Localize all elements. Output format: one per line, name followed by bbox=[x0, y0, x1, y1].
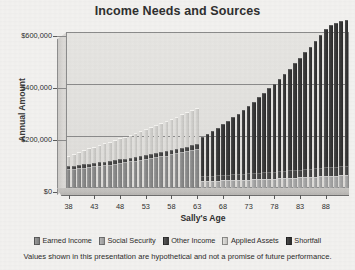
bar-segment bbox=[108, 142, 112, 161]
bar-segment bbox=[134, 161, 138, 188]
bar-column bbox=[113, 140, 117, 188]
bar-segment bbox=[98, 166, 102, 188]
bar-segment bbox=[252, 179, 256, 188]
bar-segment bbox=[195, 108, 199, 144]
legend-item[interactable]: Applied Assets bbox=[222, 236, 278, 245]
bar-segment bbox=[226, 121, 230, 175]
x-tick-label: 83 bbox=[296, 202, 304, 211]
bar-segment bbox=[154, 125, 158, 153]
legend-item[interactable]: Social Security bbox=[99, 236, 156, 245]
bar-column bbox=[154, 125, 158, 188]
bar-column bbox=[103, 143, 107, 188]
bar-segment bbox=[242, 110, 246, 174]
bar-column bbox=[273, 83, 277, 188]
bar-segment bbox=[247, 180, 251, 188]
bar-column bbox=[72, 154, 76, 188]
bar-column bbox=[77, 152, 81, 188]
bar-segment bbox=[72, 154, 76, 166]
bar-column bbox=[123, 137, 127, 188]
bar-segment bbox=[252, 102, 256, 174]
legend-label: Social Security bbox=[107, 236, 155, 245]
bar-segment bbox=[309, 47, 313, 169]
bar-segment bbox=[262, 172, 266, 179]
bar-segment bbox=[180, 152, 184, 188]
x-tick-label: 88 bbox=[322, 202, 330, 211]
bar-segment bbox=[92, 166, 96, 188]
bar-segment bbox=[72, 169, 76, 188]
bar-column bbox=[165, 121, 169, 188]
bar-column bbox=[303, 52, 307, 188]
bar-segment bbox=[339, 175, 343, 188]
bar-segment bbox=[319, 168, 323, 176]
bar-segment bbox=[113, 164, 117, 188]
legend-label: Applied Assets bbox=[231, 236, 279, 245]
bar-segment bbox=[175, 153, 179, 188]
y-axis-ticks: $0$200,000$400,000$600,000 bbox=[0, 0, 52, 230]
bar-segment bbox=[221, 124, 225, 174]
bar-column bbox=[139, 131, 143, 188]
bar-segment bbox=[113, 140, 117, 160]
bar-segment bbox=[87, 148, 91, 164]
legend-item[interactable]: Earned Income bbox=[34, 236, 92, 245]
bar-column bbox=[247, 106, 251, 188]
bar-segment bbox=[237, 114, 241, 174]
bar-column bbox=[87, 148, 91, 188]
bar-segment bbox=[103, 143, 107, 161]
plot-area bbox=[57, 32, 349, 195]
bar-segment bbox=[288, 178, 292, 188]
bar-segment bbox=[190, 110, 194, 145]
bar-segment bbox=[134, 133, 138, 157]
bar-segment bbox=[293, 178, 297, 188]
bar-segment bbox=[67, 156, 71, 166]
bar-column bbox=[195, 108, 199, 188]
x-tick-mark bbox=[120, 195, 121, 199]
bar-column bbox=[324, 29, 328, 188]
bar-column bbox=[339, 21, 343, 188]
bar-column bbox=[175, 117, 179, 188]
bar-column bbox=[159, 123, 163, 188]
legend-swatch-icon bbox=[222, 237, 228, 245]
x-tick-label: 43 bbox=[90, 202, 98, 211]
bar-segment bbox=[242, 180, 246, 188]
bar-segment bbox=[82, 168, 86, 188]
bar-segment bbox=[324, 167, 328, 176]
x-tick-mark bbox=[326, 195, 327, 199]
bar-segment bbox=[329, 167, 333, 176]
legend-item[interactable]: Other Income bbox=[163, 236, 216, 245]
legend-swatch-icon bbox=[163, 237, 169, 245]
bar-segment bbox=[273, 179, 277, 188]
bar-segment bbox=[98, 145, 102, 162]
bar-segment bbox=[139, 160, 143, 188]
x-tick-label: 48 bbox=[116, 202, 124, 211]
bar-column bbox=[134, 133, 138, 188]
bar-column bbox=[98, 145, 102, 188]
bar-segment bbox=[288, 170, 292, 177]
legend-swatch-icon bbox=[286, 237, 292, 245]
bar-segment bbox=[303, 169, 307, 177]
bar-segment bbox=[303, 52, 307, 169]
bar-segment bbox=[298, 58, 302, 170]
bar-segment bbox=[283, 178, 287, 188]
x-tick-label: 78 bbox=[270, 202, 278, 211]
bar-segment bbox=[314, 41, 318, 169]
bar-segment bbox=[262, 93, 266, 173]
bar-column bbox=[129, 135, 133, 188]
bar-segment bbox=[345, 20, 349, 166]
bar-segment bbox=[206, 134, 210, 176]
bar-segment bbox=[195, 149, 199, 188]
legend-item[interactable]: Shortfall bbox=[286, 236, 321, 245]
bar-column bbox=[185, 112, 189, 188]
bar-column bbox=[345, 20, 349, 188]
bar-column bbox=[216, 128, 220, 188]
bar-column bbox=[201, 137, 205, 188]
chart-legend: Earned IncomeSocial SecurityOther Income… bbox=[0, 236, 355, 245]
x-tick-mark bbox=[146, 195, 147, 199]
bar-segment bbox=[298, 170, 302, 178]
bar-segment bbox=[283, 74, 287, 171]
bar-segment bbox=[278, 171, 282, 178]
bar-segment bbox=[226, 180, 230, 188]
bar-segment bbox=[103, 165, 107, 188]
bar-segment bbox=[144, 159, 148, 188]
y-tick-label: $400,000 bbox=[2, 83, 52, 92]
bar-segment bbox=[165, 121, 169, 151]
